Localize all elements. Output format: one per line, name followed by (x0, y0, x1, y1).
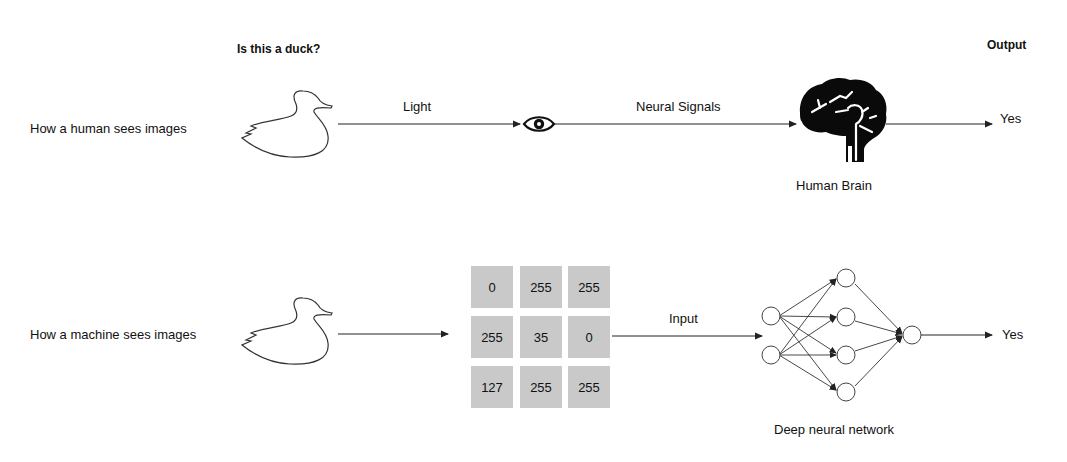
input-label: Input (669, 311, 698, 326)
network-label: Deep neural network (774, 422, 894, 437)
question-header: Is this a duck? (237, 42, 320, 56)
neural-signals-label: Neural Signals (636, 99, 721, 114)
pixel-cell: 255 (568, 266, 610, 308)
pixel-cell: 255 (520, 366, 562, 408)
pixel-cell: 0 (471, 266, 513, 308)
network-edges (779, 279, 902, 390)
human-brain-label: Human Brain (796, 178, 872, 193)
human-row-label: How a human sees images (30, 121, 187, 136)
network-nodes (762, 269, 921, 401)
light-label: Light (403, 99, 431, 114)
pixel-cell: 255 (471, 316, 513, 358)
pixel-cell: 255 (568, 366, 610, 408)
pixel-cell: 0 (568, 316, 610, 358)
duck-outline-icon (242, 91, 332, 157)
human-output-value: Yes (1000, 111, 1021, 126)
output-header: Output (987, 38, 1026, 52)
duck-outline-icon (242, 298, 332, 364)
pixel-cell: 35 (520, 316, 562, 358)
pixel-cell: 255 (520, 266, 562, 308)
pixel-cell: 127 (471, 366, 513, 408)
brain-icon (800, 78, 887, 162)
eye-icon (524, 117, 554, 131)
machine-row-label: How a machine sees images (30, 327, 196, 342)
machine-output-value: Yes (1002, 327, 1023, 342)
